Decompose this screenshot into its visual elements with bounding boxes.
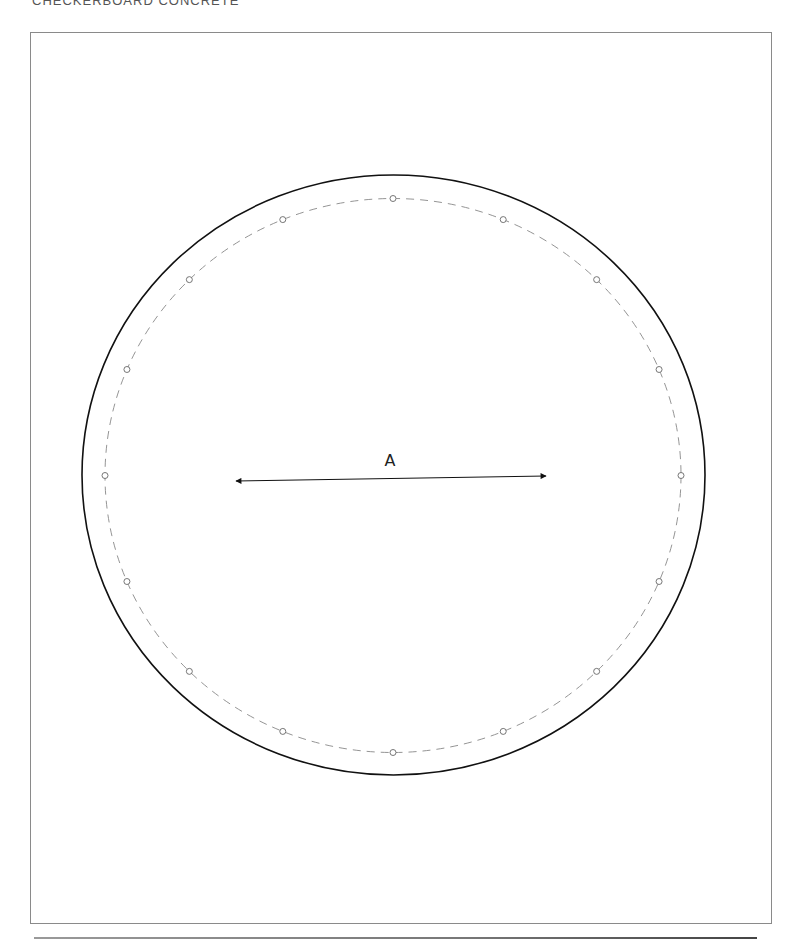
bolt-hole <box>280 217 286 223</box>
bolt-hole <box>124 579 130 585</box>
bolt-holes <box>102 196 684 756</box>
bolt-hole <box>500 217 506 223</box>
bolt-hole <box>594 668 600 674</box>
bolt-hole <box>390 196 396 202</box>
bolt-hole <box>280 728 286 734</box>
bolt-hole <box>102 473 108 479</box>
dimension-arrow <box>236 476 546 481</box>
outer-circle <box>82 175 705 775</box>
bolt-hole <box>594 277 600 283</box>
bolt-hole <box>390 750 396 756</box>
drawing-canvas: A <box>0 0 792 951</box>
dimension-label: A <box>385 451 396 470</box>
bolt-hole <box>678 473 684 479</box>
bolt-hole <box>186 277 192 283</box>
bolt-hole <box>656 366 662 372</box>
footer-rule <box>34 937 757 939</box>
bolt-hole <box>500 728 506 734</box>
bolt-hole <box>186 668 192 674</box>
bolt-hole <box>124 366 130 372</box>
bolt-hole <box>656 579 662 585</box>
